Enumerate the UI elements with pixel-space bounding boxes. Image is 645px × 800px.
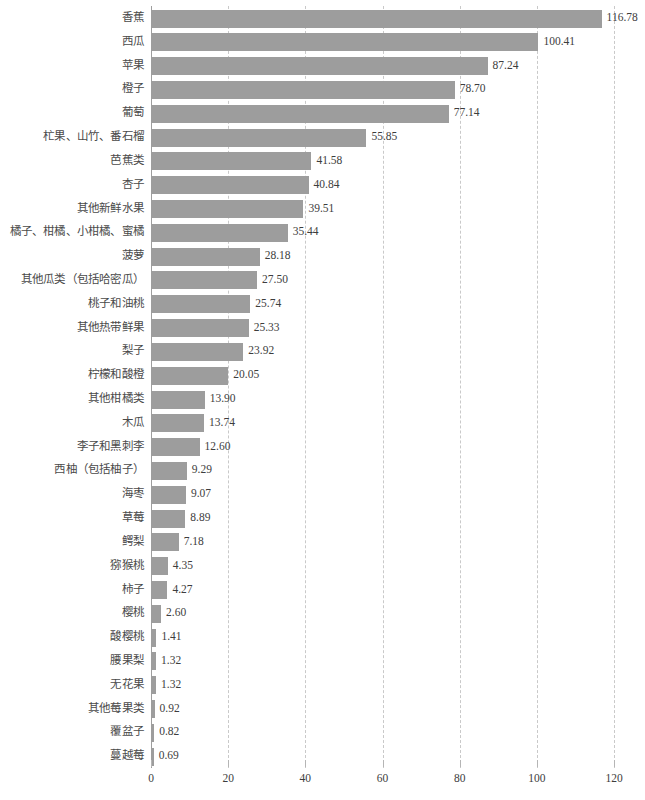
bar-row[interactable]: 橙子78.70 <box>151 77 614 101</box>
bar[interactable] <box>151 533 179 551</box>
bar[interactable] <box>151 176 309 194</box>
bar[interactable] <box>151 343 243 361</box>
bar[interactable] <box>151 510 185 528</box>
bar-row[interactable]: 覆盆子0.82 <box>151 720 614 744</box>
bar[interactable] <box>151 248 260 266</box>
bar-value-label: 55.85 <box>371 125 397 149</box>
bar-row[interactable]: 芭蕉类41.58 <box>151 149 614 173</box>
bar[interactable] <box>151 557 168 575</box>
bar-row[interactable]: 其他柑橘类13.90 <box>151 387 614 411</box>
category-label: 梨子 <box>122 339 144 363</box>
category-label: 蔓越莓 <box>110 744 144 768</box>
category-label: 草莓 <box>122 506 144 530</box>
bar[interactable] <box>151 367 228 385</box>
bar[interactable] <box>151 57 488 75</box>
category-label: 猕猴桃 <box>110 554 144 578</box>
bar[interactable] <box>151 486 186 504</box>
bar-chart: 香蕉116.78西瓜100.41苹果87.24橙子78.70葡萄77.14杧果、… <box>0 0 645 800</box>
bar-row[interactable]: 葡萄77.14 <box>151 101 614 125</box>
bar[interactable] <box>151 200 303 218</box>
bar-row[interactable]: 香蕉116.78 <box>151 6 614 30</box>
bar-row[interactable]: 鳄梨7.18 <box>151 530 614 554</box>
bar-row[interactable]: 腰果梨1.32 <box>151 649 614 673</box>
bar-value-label: 2.60 <box>166 601 186 625</box>
category-label: 西柚（包括柚子） <box>54 458 144 482</box>
bar[interactable] <box>151 438 200 456</box>
bar[interactable] <box>151 700 155 718</box>
bar-row[interactable]: 西瓜100.41 <box>151 30 614 54</box>
x-tick-mark <box>614 760 615 767</box>
bar-row[interactable]: 草莓8.89 <box>151 506 614 530</box>
bar-value-label: 27.50 <box>262 268 288 292</box>
bar-row[interactable]: 梨子23.92 <box>151 339 614 363</box>
bar-value-label: 1.41 <box>161 625 181 649</box>
bar-row[interactable]: 海枣9.07 <box>151 482 614 506</box>
bar-row[interactable]: 猕猴桃4.35 <box>151 554 614 578</box>
category-label: 橙子 <box>122 77 144 101</box>
bar-row[interactable]: 杧果、山竹、番石榴55.85 <box>151 125 614 149</box>
bar-value-label: 4.27 <box>172 578 192 602</box>
category-label: 其他热带鲜果 <box>77 316 144 340</box>
bar-value-label: 116.78 <box>607 6 638 30</box>
bar[interactable] <box>151 414 204 432</box>
bar-value-label: 78.70 <box>460 77 486 101</box>
bar[interactable] <box>151 391 205 409</box>
bar-row[interactable]: 其他热带鲜果25.33 <box>151 316 614 340</box>
bar-row[interactable]: 无花果1.32 <box>151 673 614 697</box>
x-tick-label: 100 <box>528 772 545 784</box>
bar-row[interactable]: 木瓜13.74 <box>151 411 614 435</box>
x-tick-label: 120 <box>605 772 622 784</box>
bar-row[interactable]: 杏子40.84 <box>151 173 614 197</box>
bar-row[interactable]: 柿子4.27 <box>151 578 614 602</box>
bar[interactable] <box>151 81 455 99</box>
bar-row[interactable]: 其他莓果类0.92 <box>151 697 614 721</box>
bar[interactable] <box>151 295 250 313</box>
bar-value-label: 87.24 <box>493 54 519 78</box>
x-tick-mark <box>305 760 306 767</box>
bar[interactable] <box>151 629 156 647</box>
x-tick-mark <box>151 760 152 767</box>
category-label: 桃子和油桃 <box>88 292 144 316</box>
category-label: 木瓜 <box>122 411 144 435</box>
bar[interactable] <box>151 152 311 170</box>
bar[interactable] <box>151 319 249 337</box>
bar[interactable] <box>151 724 154 742</box>
x-tick-mark <box>228 760 229 767</box>
bar[interactable] <box>151 605 161 623</box>
category-label: 香蕉 <box>122 6 144 30</box>
bar-value-label: 13.74 <box>209 411 235 435</box>
bar-row[interactable]: 桃子和油桃25.74 <box>151 292 614 316</box>
bar-row[interactable]: 橘子、柑橘、小柑橘、蜜橘35.44 <box>151 220 614 244</box>
plot-area: 香蕉116.78西瓜100.41苹果87.24橙子78.70葡萄77.14杧果、… <box>151 6 614 768</box>
category-label: 酸樱桃 <box>110 625 144 649</box>
bar[interactable] <box>151 271 257 289</box>
bar[interactable] <box>151 129 366 147</box>
bar-row[interactable]: 苹果87.24 <box>151 54 614 78</box>
bar-value-label: 1.32 <box>161 673 181 697</box>
bar-row[interactable]: 其他新鲜水果39.51 <box>151 197 614 221</box>
bar-row[interactable]: 柠檬和酸橙20.05 <box>151 363 614 387</box>
bar-row[interactable]: 其他瓜类（包括哈密瓜）27.50 <box>151 268 614 292</box>
bar[interactable] <box>151 462 187 480</box>
bar-row[interactable]: 西柚（包括柚子）9.29 <box>151 458 614 482</box>
bar-row[interactable]: 酸樱桃1.41 <box>151 625 614 649</box>
bar-row[interactable]: 菠萝28.18 <box>151 244 614 268</box>
bar-row[interactable]: 樱桃2.60 <box>151 601 614 625</box>
x-tick-mark <box>460 760 461 767</box>
bar-value-label: 23.92 <box>248 339 274 363</box>
bar[interactable] <box>151 33 538 51</box>
bar[interactable] <box>151 581 167 599</box>
bar-row[interactable]: 李子和黑刺李12.60 <box>151 435 614 459</box>
bar-value-label: 39.51 <box>308 197 334 221</box>
bar-value-label: 4.35 <box>173 554 193 578</box>
bar[interactable] <box>151 10 602 28</box>
bar[interactable] <box>151 652 156 670</box>
category-label: 其他新鲜水果 <box>77 197 144 221</box>
bar[interactable] <box>151 676 156 694</box>
category-label: 覆盆子 <box>110 720 144 744</box>
bar[interactable] <box>151 105 449 123</box>
bar-value-label: 25.74 <box>255 292 281 316</box>
bar[interactable] <box>151 224 288 242</box>
gridline <box>614 6 615 768</box>
bar-value-label: 35.44 <box>293 220 319 244</box>
